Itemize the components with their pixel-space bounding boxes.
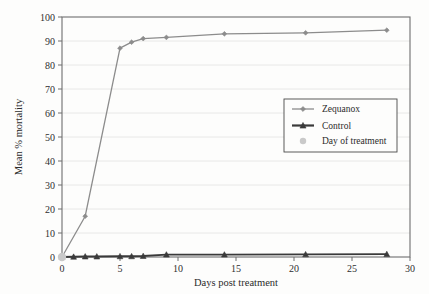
x-tick-label: 25 (347, 263, 357, 274)
y-tick-label: 90 (45, 36, 55, 47)
y-tick-label: 40 (45, 156, 55, 167)
legend-label: Control (322, 121, 351, 131)
x-tick-label: 10 (173, 263, 183, 274)
y-axis-title: Mean % mortality (13, 98, 24, 175)
data-point-marker-circle (58, 253, 66, 261)
y-tick-label: 30 (45, 180, 55, 191)
y-tick-label: 10 (45, 228, 55, 239)
mortality-line-chart: 0102030405060708090100 051015202530 Days… (0, 0, 429, 294)
legend-circle-icon (300, 138, 306, 144)
figure-container: 0102030405060708090100 051015202530 Days… (0, 0, 429, 294)
x-tick-label: 15 (231, 263, 241, 274)
y-tick-label: 70 (45, 84, 55, 95)
y-tick-label: 20 (45, 204, 55, 215)
y-tick-label: 0 (50, 252, 55, 263)
legend-label: Day of treatment (322, 136, 387, 146)
legend: ZequanoxControlDay of treatment (284, 99, 397, 152)
x-tick-label: 30 (405, 263, 415, 274)
y-tick-label: 60 (45, 108, 55, 119)
y-tick-label: 50 (45, 132, 55, 143)
x-tick-label: 20 (289, 263, 299, 274)
x-tick-label: 0 (60, 263, 65, 274)
y-tick-label: 100 (40, 12, 55, 23)
y-tick-label: 80 (45, 60, 55, 71)
series-day-of-treatment (58, 253, 66, 261)
x-axis-title: Days post treatment (194, 277, 278, 288)
x-tick-label: 5 (118, 263, 123, 274)
legend-label: Zequanox (322, 104, 360, 114)
